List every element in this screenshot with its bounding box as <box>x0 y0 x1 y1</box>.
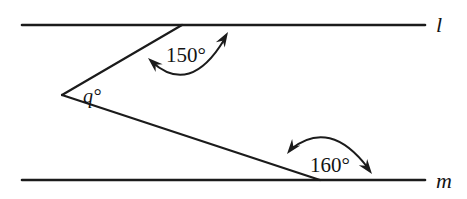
line-label-m: m <box>436 168 452 193</box>
ray-lower-transversal <box>62 95 320 180</box>
geometry-canvas: 150° 160° q° l m <box>0 0 467 199</box>
ray-upper-transversal <box>62 25 182 95</box>
angle-arc-150-arrowhead-left <box>148 58 163 72</box>
angle-arc-160-arrowhead-right <box>359 159 372 174</box>
angle-label-q: q° <box>83 85 101 108</box>
angle-label-160: 160° <box>310 153 350 177</box>
angle-label-150: 150° <box>166 43 206 67</box>
angle-arc-150-arrowhead-right <box>216 32 228 48</box>
angle-arc-160-arrowhead-left <box>287 139 300 154</box>
line-label-l: l <box>436 12 442 37</box>
geometry-diagram: 150° 160° q° l m <box>0 0 467 199</box>
